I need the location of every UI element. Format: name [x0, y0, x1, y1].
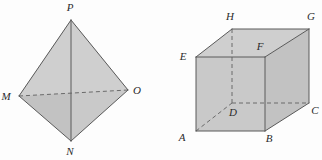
vertex-label-N: N — [65, 145, 74, 157]
vertex-label-H: H — [225, 10, 235, 22]
vertex-label-G: G — [307, 10, 315, 22]
vertex-label-E: E — [179, 50, 187, 62]
diagram-svg: P M O N A — [0, 0, 322, 160]
shape-cuboid: A B C D E F G H — [178, 10, 320, 144]
shape-tetrahedron: P M O N — [0, 1, 141, 157]
vertex-label-B: B — [266, 132, 273, 144]
vertex-label-F: F — [256, 40, 264, 52]
vertex-label-P: P — [66, 1, 74, 13]
vertex-label-O: O — [133, 84, 141, 96]
vertex-label-C: C — [311, 104, 319, 116]
cuboid-face-front — [196, 57, 265, 131]
tetra-face-back — [19, 20, 128, 96]
vertex-label-M: M — [0, 90, 11, 102]
vertex-label-A: A — [178, 131, 186, 143]
geometry-diagram-canvas: P M O N A — [0, 0, 322, 160]
vertex-label-D: D — [228, 106, 237, 118]
